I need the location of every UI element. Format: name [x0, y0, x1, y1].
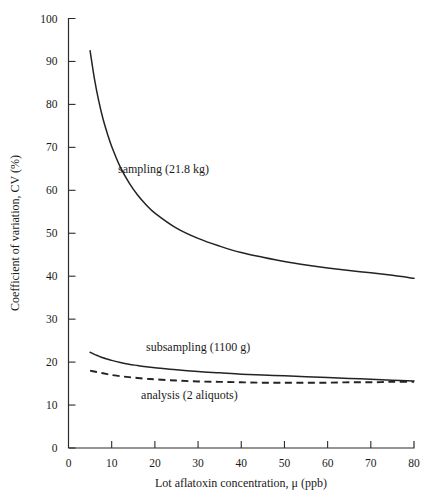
- y-tick-label: 80: [46, 98, 58, 110]
- y-tick-label: 100: [40, 13, 58, 25]
- chart-figure: 0102030405060708090100 01020304050607080…: [0, 0, 430, 499]
- x-tick-label: 10: [106, 457, 118, 469]
- series-label-sampling: sampling (21.8 kg): [118, 162, 209, 176]
- x-tick-label: 80: [408, 457, 420, 469]
- x-tick-label: 20: [149, 457, 161, 469]
- chart-canvas: 0102030405060708090100 01020304050607080…: [0, 0, 430, 499]
- x-tick-label: 40: [236, 457, 248, 469]
- series-group: [90, 51, 414, 383]
- y-tick-label: 10: [46, 399, 58, 411]
- y-tick-label: 0: [52, 442, 58, 454]
- x-tick-label: 30: [192, 457, 204, 469]
- y-tick-label: 40: [46, 270, 58, 282]
- y-axis-ticks: 0102030405060708090100: [40, 13, 75, 455]
- x-tick-label: 50: [279, 457, 291, 469]
- x-tick-label: 0: [66, 457, 72, 469]
- y-tick-label: 70: [46, 141, 58, 153]
- x-axis-ticks: 01020304050607080: [66, 441, 420, 469]
- y-tick-label: 30: [46, 313, 58, 325]
- y-tick-label: 60: [46, 184, 58, 196]
- series-line-subsampling: [90, 352, 414, 381]
- x-tick-label: 60: [322, 457, 334, 469]
- y-tick-label: 90: [46, 55, 58, 67]
- series-label-subsampling: subsampling (1100 g): [146, 340, 250, 354]
- y-axis-title: Coefficient of variation, CV (%): [8, 155, 22, 311]
- series-line-analysis: [90, 371, 414, 383]
- x-tick-label: 70: [365, 457, 377, 469]
- x-axis-title: Lot aflatoxin concentration, μ (ppb): [155, 476, 327, 490]
- y-tick-label: 20: [46, 356, 58, 368]
- series-label-analysis: analysis (2 aliquots): [141, 388, 238, 402]
- y-tick-label: 50: [46, 227, 58, 239]
